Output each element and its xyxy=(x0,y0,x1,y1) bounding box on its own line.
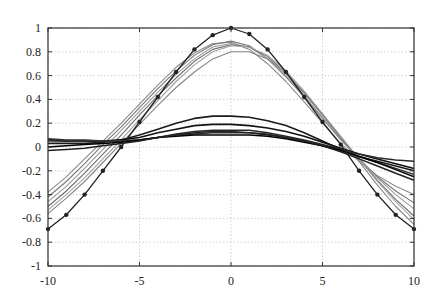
data-point-marker xyxy=(375,192,379,196)
y-tick-label: 0.2 xyxy=(26,116,41,130)
data-point-marker xyxy=(82,192,86,196)
x-tick-label: -5 xyxy=(135,274,145,288)
x-tick-label: 0 xyxy=(228,274,234,288)
y-tick-label: -0.8 xyxy=(22,235,41,249)
data-point-marker xyxy=(284,70,288,74)
data-point-marker xyxy=(320,120,324,124)
line-chart: -10-50510 -1-0.8-0.6-0.4-0.200.20.40.60.… xyxy=(0,0,439,305)
data-point-marker xyxy=(119,145,123,149)
y-tick-label: 0.8 xyxy=(26,45,41,59)
x-tick-label: 10 xyxy=(408,274,420,288)
data-point-marker xyxy=(137,120,141,124)
data-point-marker xyxy=(265,47,269,51)
y-tick-label: -1 xyxy=(31,259,41,273)
data-point-marker xyxy=(156,95,160,99)
data-point-marker xyxy=(192,47,196,51)
data-point-marker xyxy=(339,142,343,146)
x-tick-label: 5 xyxy=(320,274,326,288)
y-tick-label: 0.6 xyxy=(26,69,41,83)
y-tick-label: -0.4 xyxy=(22,188,41,202)
x-tick-label: -10 xyxy=(40,274,56,288)
data-point-marker xyxy=(302,95,306,99)
series-line xyxy=(48,28,414,229)
grid-lines xyxy=(48,28,414,266)
data-point-marker xyxy=(394,213,398,217)
data-point-marker xyxy=(357,169,361,173)
data-point-marker xyxy=(174,70,178,74)
data-point-marker xyxy=(211,33,215,37)
y-tick-label: -0.6 xyxy=(22,211,41,225)
data-point-marker xyxy=(101,169,105,173)
y-tick-label: 0 xyxy=(35,140,41,154)
data-point-marker xyxy=(64,213,68,217)
y-tick-label: 1 xyxy=(35,21,41,35)
y-tick-label: 0.4 xyxy=(26,92,41,106)
y-tick-label: -0.2 xyxy=(22,164,41,178)
data-point-marker xyxy=(247,32,251,36)
